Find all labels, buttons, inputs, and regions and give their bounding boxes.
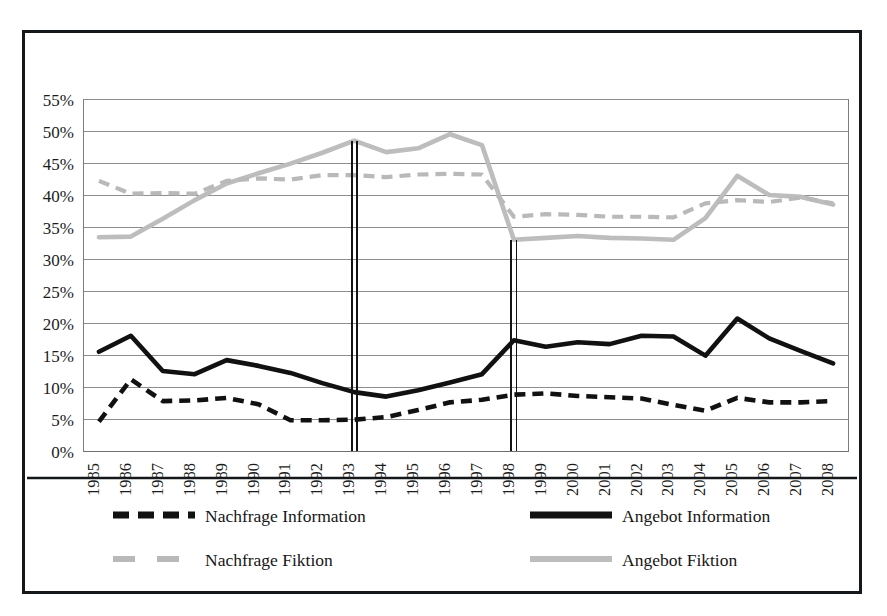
chart-canvas: 55%50%45%40%35%30%25%20%15%10%5%0% 19851… [25,33,859,591]
x-axis-tick-label: 1996 [435,463,454,496]
x-axis-tick-label: 1997 [467,463,486,496]
y-axis-tick-label: 50% [43,123,74,142]
x-axis-tick-label: 2006 [754,463,773,496]
data-series-group [99,134,833,421]
y-axis-tick-label: 25% [43,283,74,302]
x-axis-tick-label: 2004 [690,463,709,496]
series-line [99,319,833,397]
x-axis-tick-label: 1986 [116,463,135,496]
y-axis-tick-label: 40% [43,187,74,206]
line-chart: 55%50%45%40%35%30%25%20%15%10%5%0% 19851… [25,33,859,591]
legend-label: Nachfrage Information [205,506,366,526]
x-axis-tick-label: 2002 [627,463,646,496]
x-axis-tick-label: 2007 [786,463,805,496]
x-axis-tick-label: 1994 [371,463,390,496]
x-axis-tick-label: 1991 [275,463,294,496]
x-axis-tick-label: 1993 [339,463,358,496]
y-axis-tick-label: 20% [43,315,74,334]
x-axis-tick-label: 2008 [818,463,837,496]
x-axis-tick-label: 1995 [403,463,422,496]
legend-label: Nachfrage Fiktion [205,550,333,570]
x-axis-tick-label: 2001 [595,463,614,496]
x-axis-tick-label: 1985 [84,463,103,496]
y-axis-tick-label: 5% [51,411,74,430]
y-axis-tick-labels: 55%50%45%40%35%30%25%20%15%10%5%0% [43,91,74,462]
y-axis-tick-label: 15% [43,347,74,366]
x-axis-tick-label: 1999 [531,463,550,496]
x-axis-tick-label: 2003 [658,463,677,496]
y-axis-tick-label: 30% [43,251,74,270]
y-axis-tick-label: 55% [43,91,74,110]
x-axis-tick-label: 2000 [563,463,582,496]
x-axis-tick-label: 1987 [148,463,167,496]
x-axis-tick-labels: 1985198619871988198919901991199219931994… [84,463,837,496]
x-axis-tick-label: 1998 [499,463,518,496]
y-axis-tick-label: 35% [43,219,74,238]
x-axis-tick-label: 1990 [244,463,263,496]
x-axis-tick-label: 1989 [212,463,231,496]
y-axis-tick-label: 0% [51,443,74,462]
legend-label: Angebot Fiktion [622,550,737,570]
legend-label: Angebot Information [622,506,770,526]
series-line [99,379,833,421]
y-axis-tick-label: 45% [43,155,74,174]
x-axis-tick-label: 1988 [180,463,199,496]
chart-figure: 55%50%45%40%35%30%25%20%15%10%5%0% 19851… [22,30,862,594]
y-axis-tick-label: 10% [43,379,74,398]
x-axis-tick-label: 2005 [722,463,741,496]
x-axis-tick-label: 1992 [307,463,326,496]
